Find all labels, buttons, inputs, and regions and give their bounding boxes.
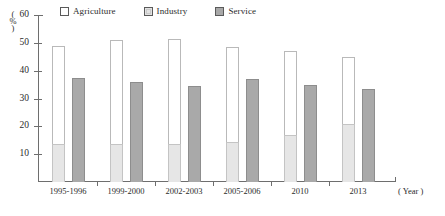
y-tick-30: 30 (34, 99, 42, 100)
x-axis-unit-label: ( Year ) (398, 186, 423, 196)
x-axis-label-2010: 2010 (271, 186, 329, 196)
bar-industry-2002-2003 (168, 144, 181, 182)
y-tick-label-50: 50 (20, 37, 30, 48)
plot-area: 60 50 40 30 20 10 (38, 15, 396, 182)
bar-service-2013 (362, 89, 375, 182)
y-tick-label-30: 30 (20, 93, 30, 104)
bar-chart: Agriculture Industry Service ( % ) 60 50… (0, 0, 445, 216)
bar-service-1999-2000 (130, 82, 143, 182)
x-axis-label-1999-2000: 1999-2000 (97, 186, 155, 196)
y-tick-20: 20 (34, 126, 42, 127)
bar-industry-2005-2006 (226, 142, 239, 182)
bar-service-1995-1996 (72, 78, 85, 182)
bar-group-1999-2000 (110, 15, 143, 182)
bar-service-2002-2003 (188, 86, 201, 182)
bar-group-2013 (342, 15, 375, 182)
y-tick-label-40: 40 (20, 65, 30, 76)
x-axis-label-1995-1996: 1995-1996 (39, 186, 97, 196)
bar-industry-2013 (342, 124, 355, 182)
bar-group-2002-2003 (168, 15, 201, 182)
x-axis-label-2013: 2013 (329, 186, 387, 196)
y-tick-10: 10 (34, 154, 42, 155)
bar-group-2005-2006 (226, 15, 259, 182)
y-unit-close-paren: ) (5, 26, 21, 31)
y-tick-label-10: 10 (20, 148, 30, 159)
x-axis-label-2002-2003: 2002-2003 (155, 186, 213, 196)
y-tick-40: 40 (34, 71, 42, 72)
x-axis-label-2005-2006: 2005-2006 (213, 186, 271, 196)
y-tick-60: 60 (34, 15, 42, 16)
bar-industry-2010 (284, 135, 297, 182)
bar-industry-1999-2000 (110, 144, 123, 182)
bar-industry-1995-1996 (52, 144, 65, 182)
bar-service-2005-2006 (246, 79, 259, 182)
bar-group-1995-1996 (52, 15, 85, 182)
x-axis-end-cap (395, 177, 396, 182)
y-tick-label-60: 60 (20, 9, 30, 20)
bar-service-2010 (304, 85, 317, 182)
y-tick-label-20: 20 (20, 120, 30, 131)
y-tick-50: 50 (34, 43, 42, 44)
bar-group-2010 (284, 15, 317, 182)
